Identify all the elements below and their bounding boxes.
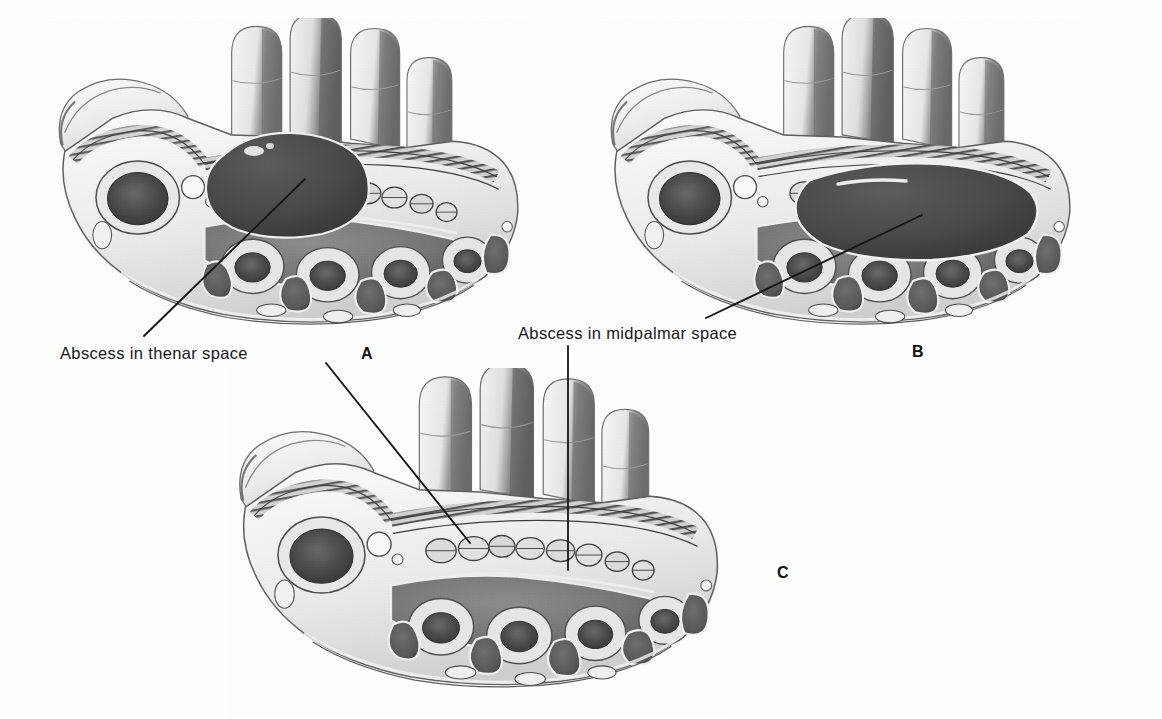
label-abscess-thenar-space: Abscess in thenar space	[60, 344, 248, 363]
figure-plate: Abscess in thenar space Abscess in midpa…	[0, 0, 1162, 719]
panel-b-hand-section	[600, 14, 1080, 352]
panel-c-hand-section	[228, 346, 728, 716]
panel-a-thenar-abscess	[206, 133, 369, 238]
panel-a-hand-section	[48, 14, 528, 352]
panel-letter-b: B	[912, 343, 924, 361]
panel-letter-a: A	[361, 345, 373, 363]
panel-letter-c: C	[777, 564, 789, 582]
label-abscess-midpalmar-space: Abscess in midpalmar space	[518, 324, 737, 343]
panel-b-midpalmar-abscess	[796, 163, 1038, 260]
